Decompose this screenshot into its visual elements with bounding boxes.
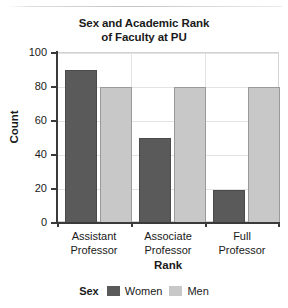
bar-assistant-women: [65, 70, 97, 224]
chart-title: Sex and Academic Rank of Faculty at PU: [0, 16, 288, 44]
y-tick-label-60: 60: [7, 115, 47, 126]
x-axis-title: Rank: [57, 259, 279, 271]
legend-item-men: Men: [169, 285, 208, 297]
legend-swatch-men-icon: [169, 286, 182, 296]
x-category-label-full-line-2: Professor: [199, 243, 285, 257]
legend-title: Sex: [79, 285, 99, 297]
gridline-y-100: [57, 53, 278, 54]
legend-item-women: Women: [107, 285, 163, 297]
chart-title-line-1: Sex and Academic Rank: [0, 16, 288, 30]
plot-area: [57, 52, 279, 222]
bar-full-women: [213, 190, 245, 224]
x-category-label-full: Full Professor: [199, 229, 285, 257]
bar-associate-women: [139, 138, 171, 224]
y-tick-label-40: 40: [7, 149, 47, 160]
x-category-label-full-line-1: Full: [199, 229, 285, 243]
chart-title-line-2: of Faculty at PU: [0, 30, 288, 44]
chart-legend: Sex Women Men: [0, 285, 288, 297]
y-axis-title: Count: [8, 97, 20, 157]
y-tick-label-0: 0: [7, 217, 47, 228]
bar-associate-men: [174, 87, 206, 224]
x-tick-mark-2: [205, 222, 207, 227]
x-tick-mark-end: [278, 222, 280, 227]
x-tick-mark-1: [131, 222, 133, 227]
bar-full-men: [248, 87, 280, 224]
legend-label-women: Women: [125, 285, 163, 297]
y-axis-line: [56, 51, 58, 223]
bar-chart: Sex and Academic Rank of Faculty at PU C…: [0, 0, 288, 308]
x-tick-mark-start: [57, 222, 59, 227]
legend-label-men: Men: [187, 285, 208, 297]
y-tick-label-100: 100: [7, 47, 47, 58]
y-tick-label-80: 80: [7, 81, 47, 92]
x-axis-line: [56, 222, 280, 224]
legend-swatch-women-icon: [107, 286, 120, 296]
y-tick-label-20: 20: [7, 183, 47, 194]
bar-assistant-men: [100, 87, 132, 224]
